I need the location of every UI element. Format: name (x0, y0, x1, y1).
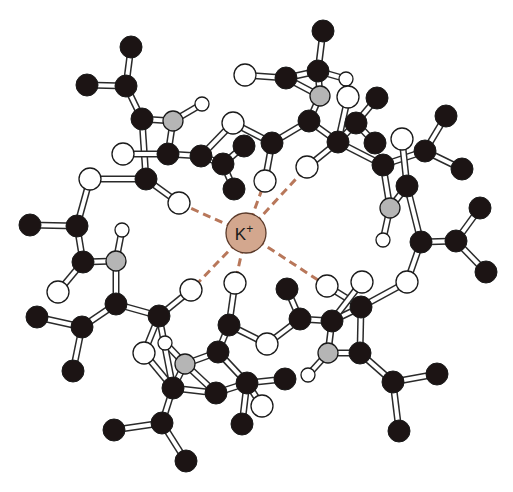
carbon-atom (62, 360, 84, 382)
hydrogen-atom (376, 233, 390, 247)
ion-symbol: K (235, 225, 247, 244)
carbon-atom (205, 382, 227, 404)
potassium-ion: K+ (226, 213, 266, 253)
carbon-atom (261, 132, 283, 154)
carbon-atom (307, 60, 329, 82)
carbon-atom (345, 112, 367, 134)
ball-and-stick-model: K+ (0, 0, 513, 492)
carbon-atom (327, 131, 349, 153)
carbon-atom (162, 377, 184, 399)
ion-charge: + (246, 222, 253, 236)
carbon-atom (350, 296, 372, 318)
oxygen-atom (133, 342, 155, 364)
carbon-atom (151, 412, 173, 434)
oxygen-atom (396, 271, 418, 293)
carbon-atom (103, 419, 125, 441)
carbon-atom (120, 36, 142, 58)
nitrogen-atom (310, 86, 330, 106)
oxygen-atom (79, 168, 101, 190)
carbon-atom (451, 158, 473, 180)
carbon-atom (218, 314, 240, 336)
nitrogen-atom (318, 343, 338, 363)
nitrogen-atom (175, 354, 195, 374)
carbon-atom (426, 363, 448, 385)
carbon-atom (131, 108, 153, 130)
hydrogen-atom (339, 72, 353, 86)
carbon-atom (233, 135, 255, 157)
carbon-atom (105, 293, 127, 315)
carbon-atom (19, 214, 41, 236)
carbon-atom (410, 231, 432, 253)
carbon-atom (135, 168, 157, 190)
carbon-atom (71, 316, 93, 338)
oxygen-atom (256, 333, 278, 355)
oxygen-atom (391, 128, 413, 150)
oxygen-atom (337, 86, 359, 108)
carbon-atom (475, 261, 497, 283)
carbon-atom (148, 305, 170, 327)
oxygen-atom (222, 112, 244, 134)
oxygen-atom (224, 272, 246, 294)
oxygen-atom (254, 170, 276, 192)
carbon-atom (236, 372, 258, 394)
carbon-atom (157, 143, 179, 165)
carbon-atom (388, 420, 410, 442)
carbon-atom (321, 310, 343, 332)
oxygen-atom (296, 156, 318, 178)
hydrogen-atom (158, 336, 172, 350)
carbon-atom (275, 67, 297, 89)
oxygen-atom (251, 395, 273, 417)
carbon-atom (372, 154, 394, 176)
hydrogen-atom (301, 368, 315, 382)
carbon-atom (190, 145, 212, 167)
carbon-atom (349, 342, 371, 364)
carbon-atom (435, 105, 457, 127)
carbon-atom (366, 87, 388, 109)
oxygen-atom (47, 281, 69, 303)
nitrogen-atom (106, 251, 126, 271)
oxygen-atom (351, 271, 373, 293)
hydrogen-atom (115, 223, 129, 237)
carbon-atom (445, 230, 467, 252)
carbon-atom (469, 197, 491, 219)
carbon-atom (223, 178, 245, 200)
carbon-atom (231, 413, 253, 435)
carbon-atom (115, 75, 137, 97)
carbon-atom (212, 153, 234, 175)
oxygen-atom (316, 275, 338, 297)
carbon-atom (396, 175, 418, 197)
valinomycin-potassium-complex-diagram: K+ (0, 0, 513, 492)
carbon-atom (312, 20, 334, 42)
carbon-atom (175, 450, 197, 472)
carbon-atom (364, 132, 386, 154)
carbon-atom (72, 251, 94, 273)
carbon-atom (26, 306, 48, 328)
carbon-atom (76, 74, 98, 96)
carbon-atom (274, 368, 296, 390)
oxygen-atom (180, 279, 202, 301)
nitrogen-atom (380, 198, 400, 218)
nitrogen-atom (163, 111, 183, 131)
hydrogen-atom (195, 97, 209, 111)
oxygen-atom (234, 64, 256, 86)
oxygen-atom (112, 143, 134, 165)
carbon-atom (382, 371, 404, 393)
carbon-atom (207, 341, 229, 363)
carbon-atom (289, 308, 311, 330)
carbon-atom (298, 110, 320, 132)
carbon-atom (414, 140, 436, 162)
oxygen-atom (168, 192, 190, 214)
carbon-atom (276, 278, 298, 300)
carbon-atom (66, 215, 88, 237)
